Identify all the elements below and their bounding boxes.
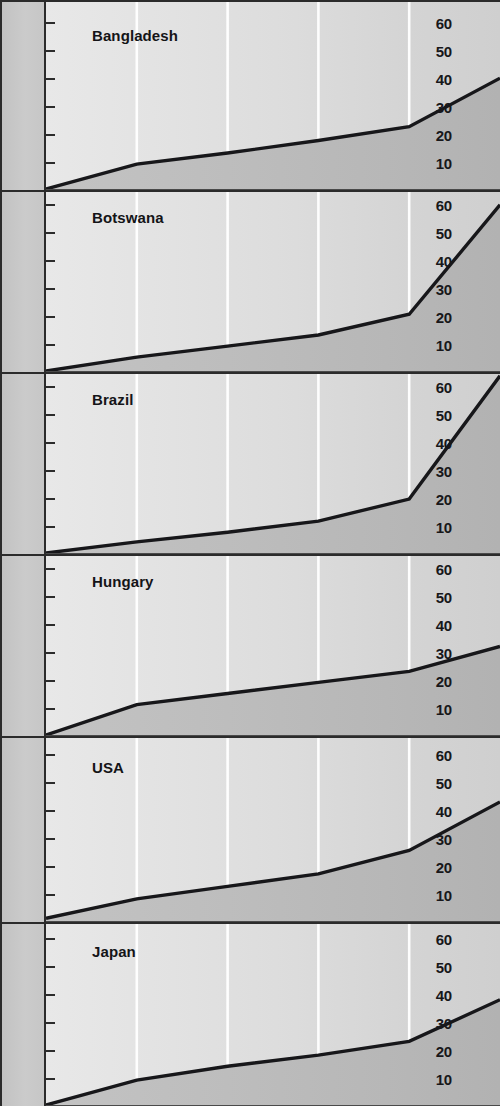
y-axis-tick-label: 40 bbox=[412, 988, 452, 1003]
panel-country-label: Botswana bbox=[92, 209, 164, 226]
y-axis-tick-label: 10 bbox=[412, 702, 452, 717]
panel-country-label: USA bbox=[92, 759, 124, 776]
panel-baseline bbox=[44, 735, 500, 736]
panel-baseline bbox=[44, 921, 500, 922]
y-axis-tick-label: 50 bbox=[412, 44, 452, 59]
y-axis-tick-mark bbox=[46, 624, 55, 626]
y-axis-gutter bbox=[2, 924, 44, 1106]
y-axis-tick-label: 50 bbox=[412, 960, 452, 975]
panel-baseline bbox=[44, 189, 500, 190]
y-axis-tick-mark bbox=[46, 414, 55, 416]
y-axis-tick-mark bbox=[46, 708, 55, 710]
y-axis-tick-label: 20 bbox=[412, 492, 452, 507]
y-axis-tick-mark bbox=[46, 838, 55, 840]
y-axis-tick-mark bbox=[46, 260, 55, 262]
y-axis-tick-label: 60 bbox=[412, 16, 452, 31]
y-axis-tick-mark bbox=[46, 134, 55, 136]
gridline-vertical bbox=[136, 738, 139, 922]
panel-country-label: Japan bbox=[92, 943, 136, 960]
y-axis-tick-label: 40 bbox=[412, 436, 452, 451]
y-axis-tick-label: 40 bbox=[412, 804, 452, 819]
y-axis-tick-mark bbox=[46, 22, 55, 24]
gridline-vertical bbox=[136, 374, 139, 554]
y-axis-tick-label: 10 bbox=[412, 520, 452, 535]
y-axis-tick-label: 30 bbox=[412, 832, 452, 847]
panel-country-label: Hungary bbox=[92, 573, 154, 590]
y-axis-tick-mark bbox=[46, 782, 55, 784]
y-axis-tick-mark bbox=[46, 162, 55, 164]
y-axis-tick-label: 10 bbox=[412, 338, 452, 353]
y-axis-gutter bbox=[2, 374, 44, 554]
y-axis-tick-mark bbox=[46, 866, 55, 868]
y-axis-tick-mark bbox=[46, 526, 55, 528]
y-axis-tick-label: 30 bbox=[412, 1016, 452, 1031]
y-axis-tick-mark bbox=[46, 754, 55, 756]
y-axis-tick-label: 60 bbox=[412, 198, 452, 213]
y-axis-tick-label: 40 bbox=[412, 72, 452, 87]
y-axis-tick-label: 60 bbox=[412, 748, 452, 763]
y-axis-tick-mark bbox=[46, 680, 55, 682]
country-panel: 605040302010Hungary bbox=[0, 554, 500, 736]
y-axis-tick-mark bbox=[46, 810, 55, 812]
figure-left-border bbox=[0, 0, 2, 1106]
y-axis-gutter bbox=[2, 192, 44, 372]
y-axis-tick-label: 30 bbox=[412, 464, 452, 479]
country-panel: 605040302010Brazil bbox=[0, 372, 500, 554]
country-panel: 605040302010Bangladesh bbox=[0, 0, 500, 190]
y-axis-tick-label: 20 bbox=[412, 860, 452, 875]
y-axis-tick-label: 50 bbox=[412, 590, 452, 605]
y-axis-tick-label: 20 bbox=[412, 1044, 452, 1059]
figure-canvas: 605040302010Bangladesh605040302010Botswa… bbox=[0, 0, 500, 1106]
y-axis-tick-mark bbox=[46, 938, 55, 940]
y-axis-tick-mark bbox=[46, 288, 55, 290]
y-axis-tick-label: 50 bbox=[412, 226, 452, 241]
y-axis-tick-mark bbox=[46, 1050, 55, 1052]
panel-country-label: Bangladesh bbox=[92, 27, 178, 44]
y-axis-tick-label: 40 bbox=[412, 254, 452, 269]
y-axis-tick-mark bbox=[46, 316, 55, 318]
y-axis-tick-label: 40 bbox=[412, 618, 452, 633]
panel-stack: 605040302010Bangladesh605040302010Botswa… bbox=[0, 0, 500, 1106]
y-axis-tick-label: 60 bbox=[412, 562, 452, 577]
panel-baseline bbox=[44, 553, 500, 554]
y-axis-gutter bbox=[2, 738, 44, 922]
y-axis-tick-label: 20 bbox=[412, 128, 452, 143]
y-axis-tick-mark bbox=[46, 1022, 55, 1024]
y-axis-tick-mark bbox=[46, 204, 55, 206]
y-axis-tick-label: 60 bbox=[412, 380, 452, 395]
y-axis-tick-mark bbox=[46, 568, 55, 570]
y-axis-tick-label: 10 bbox=[412, 156, 452, 171]
y-axis-tick-mark bbox=[46, 344, 55, 346]
y-axis-tick-mark bbox=[46, 50, 55, 52]
y-axis-tick-mark bbox=[46, 442, 55, 444]
y-axis-tick-mark bbox=[46, 652, 55, 654]
y-axis-tick-label: 10 bbox=[412, 1072, 452, 1087]
y-axis-tick-label: 20 bbox=[412, 310, 452, 325]
y-axis-tick-mark bbox=[46, 106, 55, 108]
y-axis-tick-mark bbox=[46, 1078, 55, 1080]
y-axis-tick-label: 60 bbox=[412, 932, 452, 947]
y-axis-tick-label: 30 bbox=[412, 646, 452, 661]
country-panel: 605040302010Japan bbox=[0, 922, 500, 1106]
gridline-vertical bbox=[226, 374, 229, 554]
panel-country-label: Brazil bbox=[92, 391, 133, 408]
panel-baseline bbox=[44, 371, 500, 372]
y-axis-tick-mark bbox=[46, 386, 55, 388]
y-axis-gutter bbox=[2, 2, 44, 190]
y-axis-gutter bbox=[2, 556, 44, 736]
country-panel: 605040302010Botswana bbox=[0, 190, 500, 372]
y-axis-tick-mark bbox=[46, 596, 55, 598]
y-axis-tick-label: 30 bbox=[412, 100, 452, 115]
y-axis-tick-label: 10 bbox=[412, 888, 452, 903]
y-axis-tick-label: 50 bbox=[412, 408, 452, 423]
y-axis-tick-mark bbox=[46, 994, 55, 996]
y-axis-tick-mark bbox=[46, 498, 55, 500]
y-axis-tick-label: 20 bbox=[412, 674, 452, 689]
y-axis-tick-mark bbox=[46, 78, 55, 80]
y-axis-tick-label: 30 bbox=[412, 282, 452, 297]
country-panel: 605040302010USA bbox=[0, 736, 500, 922]
y-axis-tick-mark bbox=[46, 232, 55, 234]
y-axis-tick-mark bbox=[46, 966, 55, 968]
y-axis-tick-label: 50 bbox=[412, 776, 452, 791]
y-axis-tick-mark bbox=[46, 470, 55, 472]
